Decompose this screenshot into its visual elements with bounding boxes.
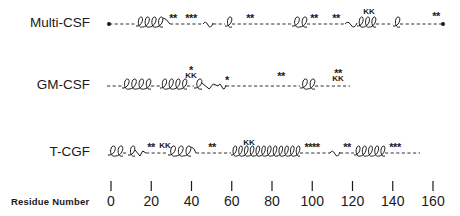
helix-segment bbox=[393, 17, 400, 27]
kk-marker: KK bbox=[363, 7, 375, 16]
helix-segment bbox=[128, 146, 135, 156]
secondary-structure-diagram: ***********KK***KK*****KK**KK**KK*******… bbox=[0, 0, 460, 216]
helix-segment bbox=[122, 79, 151, 89]
axis-tick-label: 140 bbox=[381, 193, 404, 209]
kk-marker: KK bbox=[243, 138, 255, 147]
asterisk-marker: ** bbox=[169, 12, 178, 24]
turn-segment bbox=[330, 151, 340, 156]
axis-tick-label: 160 bbox=[421, 193, 444, 209]
turn-segment bbox=[135, 150, 146, 156]
asterisk-marker: ** bbox=[208, 141, 217, 153]
row-label-t-cgf: T-CGF bbox=[0, 144, 90, 159]
axis-tick-label: 100 bbox=[301, 193, 324, 209]
helix-tail bbox=[191, 147, 196, 153]
structure-row-t-cgf: **KK**KK********* bbox=[108, 138, 420, 156]
axis-tick-label: 60 bbox=[224, 193, 240, 209]
asterisk-marker: *** bbox=[185, 12, 198, 24]
asterisk-marker: ** bbox=[147, 141, 156, 153]
axis-title: Residue Number bbox=[11, 196, 89, 207]
turn-segment bbox=[203, 22, 213, 27]
helix-segment bbox=[168, 146, 191, 156]
kk-marker: KK bbox=[332, 74, 344, 83]
kk-marker: KK bbox=[185, 71, 197, 80]
helix-segment bbox=[357, 17, 376, 27]
turn-segment bbox=[202, 83, 218, 89]
asterisk-marker: ** bbox=[332, 12, 341, 24]
structure-row-gm-csf: *KK*****KK bbox=[107, 64, 350, 89]
helix-segment bbox=[354, 146, 385, 156]
residue-axis bbox=[111, 181, 433, 191]
helix-segment bbox=[292, 17, 307, 27]
helix-segment bbox=[194, 79, 202, 89]
axis-tick-label: 20 bbox=[143, 193, 159, 209]
asterisk-marker: ** bbox=[343, 141, 352, 153]
turn-segment bbox=[345, 22, 357, 27]
asterisk-marker: *** bbox=[389, 141, 402, 153]
asterisk-marker: ** bbox=[310, 12, 319, 24]
structure-row-multi-csf: ***********KK** bbox=[107, 7, 445, 27]
row-label-multi-csf: Multi-CSF bbox=[0, 15, 90, 30]
axis-tick-label: 40 bbox=[184, 193, 200, 209]
helix-segment bbox=[225, 17, 232, 27]
asterisk-marker: **** bbox=[304, 141, 320, 153]
helix-segment bbox=[160, 79, 187, 89]
helix-segment bbox=[231, 146, 300, 156]
axis-tick-label: 0 bbox=[107, 193, 115, 209]
row-label-gm-csf: GM-CSF bbox=[0, 77, 90, 92]
kk-marker: KK bbox=[159, 141, 171, 150]
axis-tick-label: 120 bbox=[341, 193, 364, 209]
asterisk-marker: ** bbox=[246, 12, 255, 24]
helix-segment bbox=[108, 146, 123, 156]
structure-rows: ***********KK***KK*****KK**KK**KK*******… bbox=[107, 7, 445, 156]
helix-segment bbox=[136, 17, 163, 27]
asterisk-marker: * bbox=[225, 74, 230, 86]
helix-segment bbox=[300, 79, 315, 89]
asterisk-marker: ** bbox=[277, 70, 286, 82]
axis-tick-label: 80 bbox=[264, 193, 280, 209]
asterisk-marker: ** bbox=[432, 10, 441, 22]
terminus-dot bbox=[441, 22, 445, 26]
